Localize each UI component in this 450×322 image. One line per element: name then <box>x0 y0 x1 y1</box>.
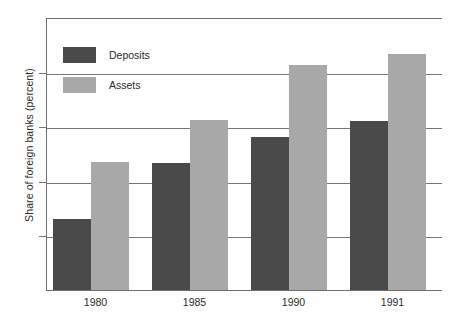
x-tick-label-1980: 1980 <box>56 296 136 308</box>
legend: Deposits Assets <box>63 44 150 104</box>
x-tick-label-1985: 1985 <box>155 296 235 308</box>
legend-swatch-assets <box>63 77 96 93</box>
bar-deposits-1991 <box>350 121 388 290</box>
y-tick-mark <box>39 182 46 183</box>
x-tick-label-1990: 1990 <box>254 296 334 308</box>
bar-assets-1990 <box>289 65 327 290</box>
bar-deposits-1990 <box>251 137 289 290</box>
bar-assets-1980 <box>91 162 129 290</box>
legend-item-deposits[interactable]: Deposits <box>63 44 150 66</box>
legend-item-assets[interactable]: Assets <box>63 74 150 96</box>
y-tick-mark <box>39 73 46 74</box>
y-axis-title: Share of foreign banks (percent) <box>23 15 35 275</box>
bar-assets-1991 <box>388 54 426 290</box>
bar-chart: Share of foreign banks (percent) 0510152… <box>0 0 450 322</box>
y-tick-mark <box>39 236 46 237</box>
y-tick-mark <box>39 127 46 128</box>
bar-deposits-1980 <box>53 219 91 290</box>
legend-label-assets: Assets <box>109 79 141 91</box>
x-tick-label-1991: 1991 <box>353 296 433 308</box>
legend-label-deposits: Deposits <box>109 49 150 61</box>
bar-deposits-1985 <box>152 163 190 290</box>
legend-swatch-deposits <box>63 47 96 63</box>
bar-assets-1985 <box>190 120 228 290</box>
